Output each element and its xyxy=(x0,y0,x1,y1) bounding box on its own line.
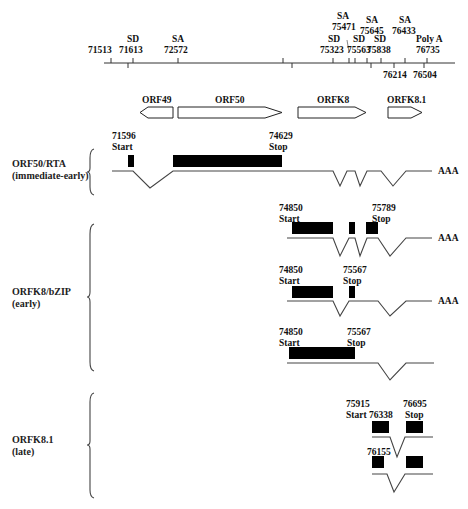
exon xyxy=(292,222,333,234)
stop-position: 75567 xyxy=(347,327,371,337)
orf-arrows: ORF49 ORF50 ORFK8 ORFK8.1 xyxy=(140,95,427,118)
genome-axis: 71513 SD 71613 SA 72572 SD 75323 SA 7547… xyxy=(88,11,455,80)
exon xyxy=(292,286,333,298)
start-position: 74850 xyxy=(279,203,303,213)
group-orfk81: ORFK8.1 (late) 75915 Start 76338 76695 S… xyxy=(12,393,433,498)
exon xyxy=(173,155,282,167)
exon xyxy=(406,421,423,433)
tick-tag: SA xyxy=(172,34,184,44)
exon xyxy=(372,456,384,468)
group-title: ORF50/RTA xyxy=(12,158,67,169)
tick-label: 71513 xyxy=(88,45,112,55)
tick-tag: SD xyxy=(127,34,139,44)
exon xyxy=(406,456,423,468)
exon xyxy=(366,222,378,234)
group-title: ORFK8.1 xyxy=(12,434,53,445)
tick-label: 76504 xyxy=(413,70,437,80)
polya-label: AAA xyxy=(438,166,459,176)
orf50-arrow xyxy=(178,107,282,118)
stop-position: 75567 xyxy=(343,265,367,275)
tick-label: 75838 xyxy=(367,45,391,55)
transcript-line xyxy=(287,238,432,256)
stop-label: Stop xyxy=(343,276,361,286)
polya-label: AAA xyxy=(438,233,459,243)
group-subtitle: (late) xyxy=(12,446,34,458)
start-label: Start xyxy=(279,338,300,348)
tick-label: 75471 xyxy=(332,22,356,32)
transcript-line xyxy=(287,363,434,380)
start-label: Start xyxy=(279,276,300,286)
start-position: 74850 xyxy=(279,327,303,337)
tick-label: 76735 xyxy=(416,45,440,55)
group-orfk8-bzip: ORFK8/bZIP (early) 74850 Start 75789 Sto… xyxy=(12,203,459,380)
tick-tag: SD xyxy=(328,34,340,44)
exon xyxy=(289,347,355,359)
tick-label: 72572 xyxy=(164,45,188,55)
transcript-line xyxy=(372,474,433,492)
tick-label: 75323 xyxy=(320,45,344,55)
polya-label: AAA xyxy=(438,296,459,306)
exon xyxy=(349,222,355,234)
group-subtitle: (immediate-early) xyxy=(12,170,89,182)
brace xyxy=(87,149,94,195)
tick-label: 76433 xyxy=(392,26,416,36)
transcript-line xyxy=(112,171,432,188)
orf-label-orf50: ORF50 xyxy=(215,95,245,105)
mid-position: 76338 xyxy=(369,410,393,420)
start-label: Start xyxy=(112,142,133,152)
tick-tag: SA xyxy=(337,11,349,21)
mid-position: 76155 xyxy=(367,447,391,457)
stop-position: 75789 xyxy=(372,203,396,213)
brace xyxy=(87,224,94,371)
gene-map-diagram: 71513 SD 71613 SA 72572 SD 75323 SA 7547… xyxy=(0,0,468,509)
stop-label: Stop xyxy=(347,338,365,348)
exon xyxy=(128,155,134,167)
orf49-arrow xyxy=(140,107,173,118)
tick-tag: SD xyxy=(374,34,386,44)
tick-label: 76214 xyxy=(383,70,407,80)
orfk81-arrow xyxy=(388,107,422,118)
tick-label: 71613 xyxy=(119,45,143,55)
tick-tag: SA xyxy=(366,15,378,25)
orfk8-arrow xyxy=(298,107,366,118)
tick-tag: SA xyxy=(399,15,411,25)
stop-position: 74629 xyxy=(269,131,293,141)
orf-label-orfk81: ORFK8.1 xyxy=(387,95,427,105)
orf-label-orfk8: ORFK8 xyxy=(317,95,349,105)
start-position: 74850 xyxy=(279,265,303,275)
start-position: 75915 xyxy=(346,399,370,409)
start-label: Start xyxy=(346,410,367,420)
group-subtitle: (early) xyxy=(12,298,40,310)
transcript-line xyxy=(287,301,432,316)
orf-label-orf49: ORF49 xyxy=(142,95,172,105)
start-position: 71596 xyxy=(112,131,136,141)
exon xyxy=(349,286,355,298)
group-orf50-rta: ORF50/RTA (immediate-early) 71596 Start … xyxy=(12,131,459,195)
exon xyxy=(372,421,389,433)
stop-position: 76695 xyxy=(403,399,427,409)
stop-label: Stop xyxy=(269,142,287,152)
stop-label: Stop xyxy=(405,410,423,420)
group-title: ORFK8/bZIP xyxy=(12,286,71,297)
tick-tag: Poly A xyxy=(416,34,443,44)
brace xyxy=(87,393,94,498)
